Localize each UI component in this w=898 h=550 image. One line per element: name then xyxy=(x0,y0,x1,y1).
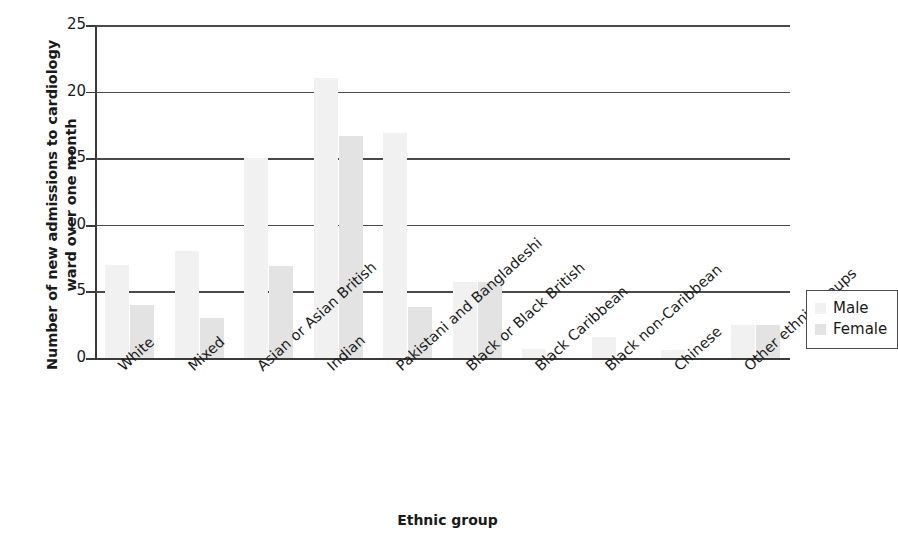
y-tick-label-25: 25 xyxy=(46,17,86,32)
legend-label-female: Female xyxy=(833,322,887,337)
legend-item-female: Female xyxy=(815,319,887,340)
bar-group xyxy=(169,25,239,358)
y-tick-label-0: 0 xyxy=(46,350,86,365)
y-tick-mark-25 xyxy=(86,25,96,27)
bar-male xyxy=(383,133,407,358)
plot-area xyxy=(95,25,790,360)
y-tick-label-5: 5 xyxy=(46,283,86,298)
y-axis-tick-labels: 0510152025 xyxy=(46,25,86,360)
bar-male xyxy=(105,265,129,358)
bar-group xyxy=(377,25,447,358)
legend-swatch-female xyxy=(815,324,826,335)
x-axis-tick-labels: WhiteMixedAsian or Asian BritishIndianPa… xyxy=(95,362,855,512)
legend-label-male: Male xyxy=(833,301,869,316)
bar-male xyxy=(244,158,268,358)
y-tick-mark-15 xyxy=(86,158,96,160)
bar-group xyxy=(725,25,795,358)
y-tick-mark-20 xyxy=(86,92,96,94)
bar-group xyxy=(99,25,169,358)
bar-male xyxy=(175,251,199,358)
y-tick-mark-5 xyxy=(86,291,96,293)
y-tick-label-15: 15 xyxy=(46,150,86,165)
legend-swatch-male xyxy=(815,303,826,314)
y-tick-mark-0 xyxy=(86,358,96,360)
y-tick-mark-10 xyxy=(86,225,96,227)
y-tick-label-10: 10 xyxy=(46,217,86,232)
chart-legend: Male Female xyxy=(806,290,898,349)
bar-groups xyxy=(95,25,790,360)
legend-item-male: Male xyxy=(815,298,887,319)
bar-female xyxy=(339,136,363,358)
bar-group xyxy=(238,25,308,358)
x-axis-title: Ethnic group xyxy=(0,512,895,528)
y-tick-label-20: 20 xyxy=(46,84,86,99)
